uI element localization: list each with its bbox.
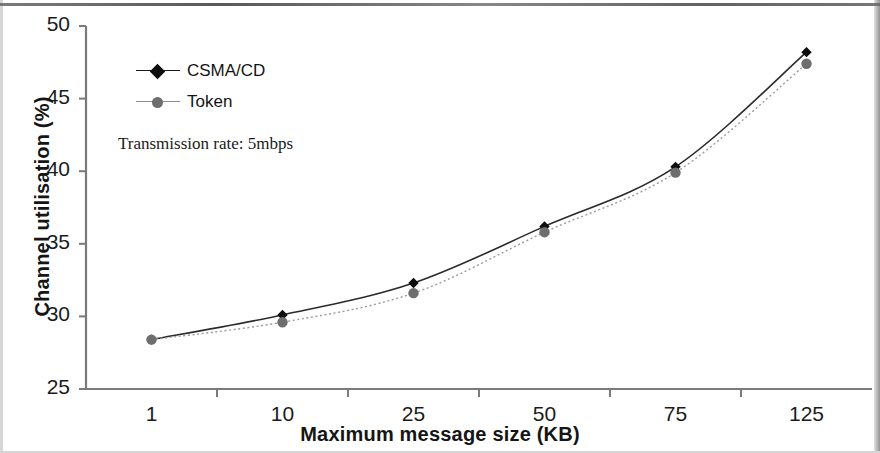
legend-swatch-csma-cd xyxy=(136,63,180,79)
x-axis-ticks xyxy=(217,389,741,397)
data-point-circle-marker xyxy=(801,59,811,69)
plot-area xyxy=(0,0,880,453)
legend-item-token: Token xyxy=(136,89,265,114)
y-axis-tick-label: 50 xyxy=(24,12,70,36)
data-point-circle-marker xyxy=(408,288,418,298)
data-point-diamond-marker xyxy=(408,278,418,288)
legend-item-csma-cd: CSMA/CD xyxy=(136,58,265,83)
legend-swatch-token xyxy=(136,94,180,110)
x-axis-title: Maximum message size (KB) xyxy=(0,423,880,446)
y-axis-tick-label: 25 xyxy=(24,375,70,399)
chart-legend: CSMA/CD Token xyxy=(136,58,265,120)
y-axis-title: Channel utilisation (%) xyxy=(31,47,54,367)
data-point-circle-marker xyxy=(277,317,287,327)
chart-annotation: Transmission rate: 5mbps xyxy=(118,134,293,154)
chart-figure: 504540353025 110255075125 Channel utilis… xyxy=(0,0,880,453)
diamond-marker-icon xyxy=(150,63,166,79)
data-point-circle-marker xyxy=(670,167,680,177)
legend-label-csma-cd: CSMA/CD xyxy=(187,61,265,81)
data-point-circle-marker xyxy=(539,227,549,237)
legend-label-token: Token xyxy=(187,92,232,112)
data-point-circle-marker xyxy=(146,334,156,344)
circle-marker-icon xyxy=(152,97,163,108)
